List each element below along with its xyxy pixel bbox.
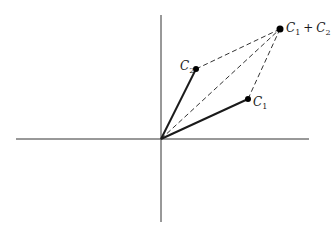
point-c1: [245, 96, 251, 102]
label-sum: C1+C2: [286, 21, 331, 37]
label-c2: C2: [180, 59, 194, 75]
dashed-diagonal-origin-to-sum: [161, 29, 280, 139]
label-c1: C1: [253, 95, 267, 111]
vector-c1: [161, 99, 248, 139]
point-sum: [277, 26, 284, 33]
dashed-c1-to-sum: [248, 29, 280, 99]
vector-c2: [161, 69, 196, 139]
dashed-c2-to-sum: [196, 29, 280, 69]
vector-addition-diagram: C1 C2 C1+C2: [0, 0, 335, 237]
